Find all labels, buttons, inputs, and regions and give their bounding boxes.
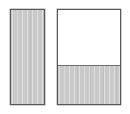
left-rectangle bbox=[10, 9, 45, 105]
figure-canvas bbox=[0, 0, 130, 114]
right-rectangle-fill-level-line bbox=[58, 65, 120, 66]
left-rectangle-fill bbox=[11, 10, 44, 104]
right-rectangle-fill bbox=[58, 65, 120, 104]
right-rectangle bbox=[57, 9, 121, 105]
